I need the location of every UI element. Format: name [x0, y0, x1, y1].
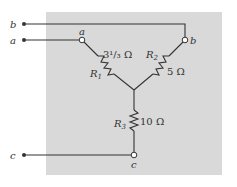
terminal-a-dot — [22, 38, 26, 42]
terminal-b-dot — [22, 22, 26, 26]
r3-value: 10 Ω — [140, 116, 164, 127]
terminal-c-label: c — [10, 150, 16, 161]
wye-circuit-diagram: b a c a b c 3¹/₃ Ω R1 R2 5 Ω R3 10 Ω — [0, 0, 237, 187]
terminal-a-label: a — [10, 35, 16, 46]
r1-value: 3¹/₃ Ω — [103, 49, 132, 60]
node-a-label: a — [79, 26, 85, 37]
r2-value: 5 Ω — [167, 66, 185, 77]
node-c — [131, 152, 137, 158]
node-b — [182, 37, 188, 43]
node-b-label: b — [190, 35, 196, 46]
terminal-b-label: b — [10, 19, 16, 30]
terminal-c-dot — [22, 153, 26, 157]
node-c-label: c — [131, 159, 137, 170]
node-a — [79, 37, 85, 43]
